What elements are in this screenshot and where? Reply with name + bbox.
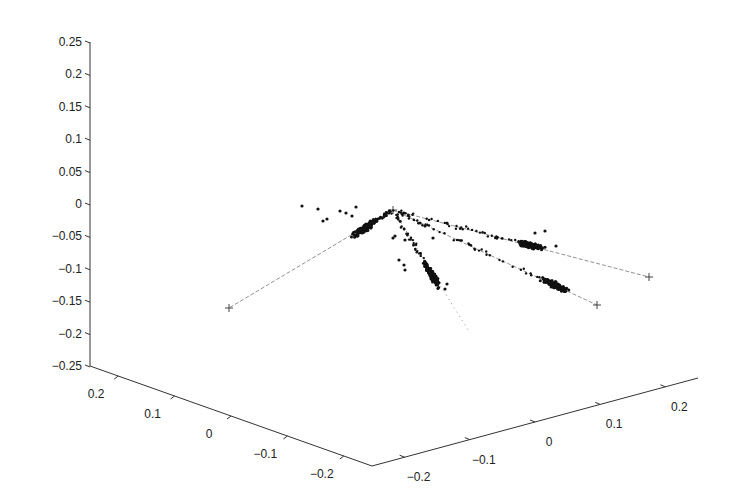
- data-point: [446, 223, 448, 225]
- data-point: [372, 222, 375, 225]
- data-point: [533, 231, 536, 234]
- data-point: [420, 255, 422, 257]
- right-floor-tick: [660, 385, 665, 387]
- right-floor-tick-label: 0.1: [606, 417, 623, 431]
- data-point: [558, 284, 561, 287]
- data-point: [539, 279, 542, 282]
- left-floor-tick-label: 0.2: [88, 387, 105, 401]
- data-point: [367, 223, 370, 226]
- data-point: [383, 216, 385, 218]
- data-point: [438, 231, 440, 233]
- data-point: [485, 254, 487, 256]
- data-point: [471, 229, 473, 231]
- data-point: [459, 239, 461, 241]
- data-point: [385, 212, 387, 214]
- data-point: [453, 239, 455, 241]
- data-point: [403, 268, 406, 271]
- data-point: [564, 287, 567, 290]
- data-point: [495, 236, 497, 238]
- data-point: [321, 219, 324, 222]
- data-point: [460, 226, 462, 228]
- z-tick-label: −0.2: [58, 327, 82, 341]
- data-point: [350, 214, 353, 217]
- right-floor-tick: [530, 420, 535, 422]
- z-tick: [85, 73, 90, 75]
- data-point: [478, 249, 480, 251]
- data-point: [436, 287, 439, 290]
- z-tick-label: 0.1: [65, 132, 82, 146]
- data-point: [543, 229, 546, 232]
- data-point: [530, 272, 532, 274]
- data-point: [401, 213, 403, 215]
- data-point: [448, 225, 450, 227]
- data-point: [485, 250, 487, 252]
- data-point: [468, 244, 470, 246]
- data-point: [408, 238, 410, 240]
- data-point: [510, 239, 512, 241]
- data-point: [554, 285, 557, 288]
- data-point: [489, 254, 491, 256]
- data-point: [443, 287, 446, 290]
- data-point: [481, 248, 483, 250]
- left-floor-tick: [171, 396, 175, 399]
- data-point: [325, 217, 328, 220]
- data-point: [413, 219, 415, 221]
- data-point: [554, 280, 557, 283]
- data-point: [523, 244, 526, 247]
- data-point: [416, 250, 418, 252]
- left-floor-tick: [283, 436, 287, 439]
- z-tick: [85, 365, 90, 367]
- left-floor-tick: [340, 456, 344, 459]
- data-point: [456, 239, 458, 241]
- data-point: [525, 272, 527, 274]
- data-points: [300, 204, 570, 293]
- data-point: [316, 207, 319, 210]
- data-point: [475, 230, 477, 232]
- data-point: [338, 209, 341, 212]
- data-point: [428, 219, 430, 221]
- z-tick: [85, 41, 90, 43]
- data-point: [502, 260, 504, 262]
- data-point: [540, 246, 543, 249]
- data-point: [436, 283, 439, 286]
- z-tick-label: 0.15: [59, 100, 83, 114]
- data-point: [354, 234, 357, 237]
- data-point: [542, 277, 545, 280]
- data-point: [501, 237, 503, 239]
- data-point: [437, 220, 439, 222]
- z-tick: [85, 138, 90, 140]
- data-point: [420, 253, 422, 255]
- data-point: [443, 232, 445, 234]
- data-point: [429, 277, 432, 280]
- data-point: [491, 235, 493, 237]
- z-tick-label: 0: [75, 197, 82, 211]
- data-point: [484, 232, 486, 234]
- right-floor-tick-label: −0.1: [472, 453, 496, 467]
- data-point: [423, 224, 426, 227]
- data-point: [435, 277, 438, 280]
- data-point: [536, 276, 538, 278]
- right-floor-tick: [400, 455, 405, 457]
- data-point: [473, 247, 475, 249]
- left-floor-tick-label: −0.2: [310, 467, 334, 481]
- data-point: [356, 232, 359, 235]
- data-point: [554, 244, 557, 247]
- data-point: [465, 225, 467, 227]
- branch-lines: [225, 206, 653, 333]
- data-point: [550, 282, 553, 285]
- z-tick: [85, 268, 90, 270]
- z-tick: [85, 235, 90, 237]
- left-floor-tick-label: 0: [206, 427, 213, 441]
- data-point: [524, 240, 527, 243]
- data-point: [391, 236, 394, 239]
- data-point: [433, 228, 435, 230]
- data-point: [300, 204, 303, 207]
- data-point: [403, 238, 406, 241]
- right-floor-tick-label: 0.2: [671, 400, 688, 414]
- data-point: [511, 266, 513, 268]
- data-point: [426, 269, 429, 272]
- left-floor-tick: [114, 376, 118, 379]
- data-point: [400, 209, 402, 211]
- z-tick-label: 0.2: [65, 67, 82, 81]
- data-point: [538, 276, 540, 278]
